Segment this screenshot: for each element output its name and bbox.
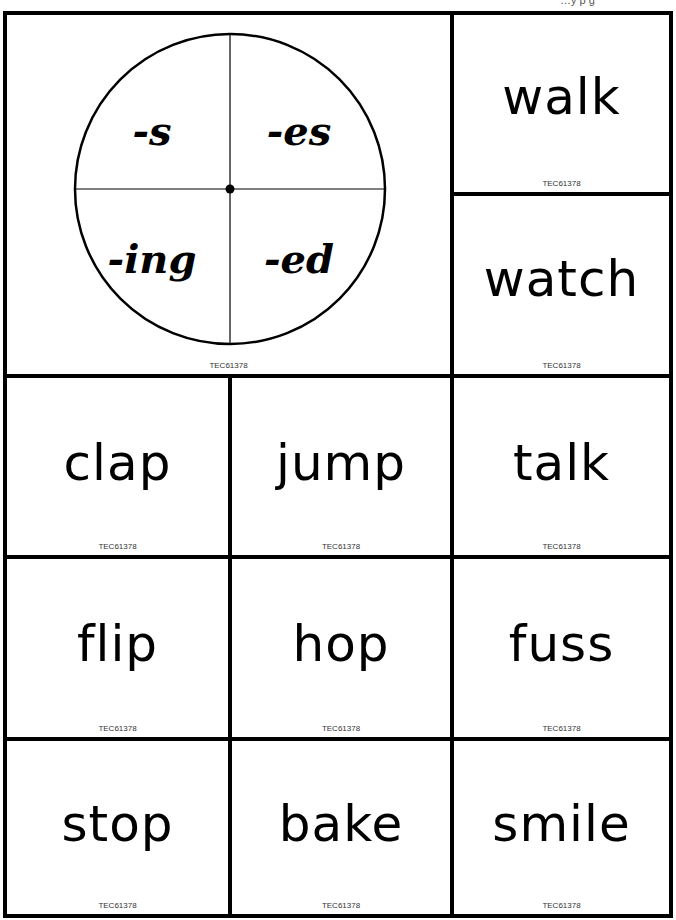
card-word: walk (454, 72, 669, 122)
card-word: fuss (454, 619, 669, 669)
product-code: TEC61378 (232, 542, 450, 551)
suffix-s: -s (132, 107, 171, 154)
word-card-smile[interactable]: smile TEC61378 (454, 741, 669, 914)
card-word: smile (454, 799, 669, 849)
suffix-es: -es (267, 107, 332, 154)
product-code: TEC61378 (7, 542, 228, 551)
suffix-ing: -ing (108, 235, 197, 282)
product-code: TEC61378 (454, 901, 669, 910)
product-code: TEC61378 (7, 361, 450, 370)
card-word: flip (7, 619, 228, 669)
card-word: watch (454, 254, 669, 304)
page-header-fragment: …y p g (560, 0, 595, 6)
product-code: TEC61378 (454, 724, 669, 733)
card-word: clap (7, 438, 228, 488)
product-code: TEC61378 (454, 542, 669, 551)
suffix-spinner[interactable]: -s -es -ing -ed (7, 15, 450, 374)
card-word: bake (232, 799, 450, 849)
word-card-jump[interactable]: jump TEC61378 (232, 378, 450, 555)
product-code: TEC61378 (232, 901, 450, 910)
suffix-ed: -ed (264, 235, 334, 282)
product-code: TEC61378 (7, 724, 228, 733)
product-code: TEC61378 (454, 361, 669, 370)
card-word: stop (7, 799, 228, 849)
product-code: TEC61378 (232, 724, 450, 733)
word-card-stop[interactable]: stop TEC61378 (7, 741, 228, 914)
word-card-flip[interactable]: flip TEC61378 (7, 559, 228, 737)
card-word: jump (232, 438, 450, 488)
card-word: talk (454, 438, 669, 488)
word-card-fuss[interactable]: fuss TEC61378 (454, 559, 669, 737)
product-code: TEC61378 (454, 179, 669, 188)
spinner-cell: -s -es -ing -ed TEC61378 (7, 15, 450, 374)
product-code: TEC61378 (7, 901, 228, 910)
word-card-talk[interactable]: talk TEC61378 (454, 378, 669, 555)
spinner-center-dot (226, 185, 235, 194)
card-word: hop (232, 619, 450, 669)
word-card-clap[interactable]: clap TEC61378 (7, 378, 228, 555)
word-card-watch[interactable]: watch TEC61378 (454, 196, 669, 374)
word-card-hop[interactable]: hop TEC61378 (232, 559, 450, 737)
word-card-bake[interactable]: bake TEC61378 (232, 741, 450, 914)
word-card-walk[interactable]: walk TEC61378 (454, 15, 669, 192)
